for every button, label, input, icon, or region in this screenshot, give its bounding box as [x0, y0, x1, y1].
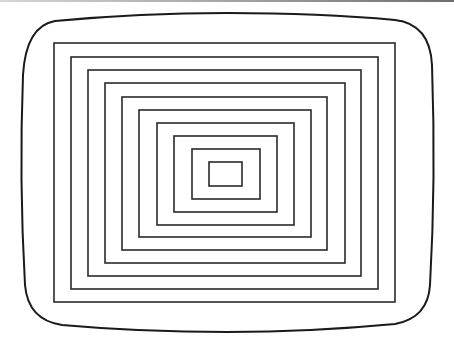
- rectangle-3: [88, 70, 361, 276]
- concentric-rectangles-drawing: [0, 0, 454, 346]
- rectangle-2: [71, 57, 378, 289]
- rectangle-5: [122, 97, 327, 250]
- rectangle-8: [174, 136, 277, 212]
- rectangle-6: [139, 110, 311, 237]
- rectangle-7: [157, 123, 294, 225]
- diagram-canvas: [0, 0, 454, 346]
- rectangle-10: [209, 162, 242, 186]
- rectangle-9: [192, 149, 260, 199]
- screen-outline: [21, 13, 433, 332]
- rectangle-group: [54, 43, 395, 302]
